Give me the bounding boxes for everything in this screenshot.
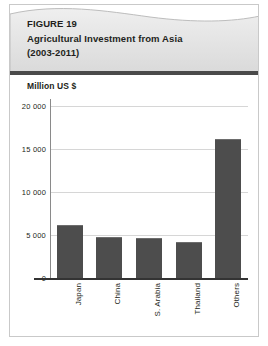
bar-thailand: [176, 242, 202, 278]
y-axis-tick-label: 15 000: [9, 145, 46, 154]
figure-title: Agricultural Investment from Asia: [27, 32, 242, 47]
y-axis-unit-label: Million US $: [27, 81, 76, 91]
bar-china: [96, 237, 122, 278]
header-separator-rule: [10, 71, 259, 75]
y-axis-tick-label: 5 000: [9, 231, 46, 240]
figure-header: FIGURE 19 Agricultural Investment from A…: [10, 5, 259, 75]
x-axis-label-japan: Japan: [74, 283, 83, 305]
figure-card: FIGURE 19 Agricultural Investment from A…: [9, 4, 259, 337]
x-axis-category-labels: JapanChinaS. ArabiaThailandOthers: [50, 281, 248, 337]
bars-group: [50, 93, 248, 278]
x-axis-label-s-arabia: S. Arabia: [153, 283, 162, 316]
bar-japan: [57, 225, 83, 278]
y-axis-tick-label: 20 000: [9, 102, 46, 111]
bar-chart-plot: 05 00010 00015 00020 000 JapanChinaS. Ar…: [10, 93, 259, 337]
x-axis-label-china: China: [113, 283, 122, 304]
x-axis-label-others: Others: [232, 283, 241, 308]
figure-number: FIGURE 19: [27, 17, 242, 32]
bar-s-arabia: [136, 238, 162, 278]
x-axis-label-thailand: Thailand: [193, 283, 202, 315]
y-axis-tick-label: 10 000: [9, 188, 46, 197]
figure-period: (2003-2011): [27, 46, 242, 61]
figure-header-text: FIGURE 19 Agricultural Investment from A…: [27, 17, 242, 61]
bar-others: [215, 139, 241, 278]
x-axis-line: [34, 278, 248, 280]
